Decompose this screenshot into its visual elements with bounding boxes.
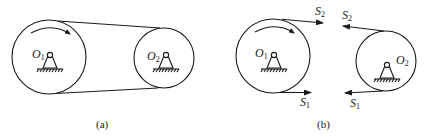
label-s1-left: S1 bbox=[300, 95, 310, 110]
panel-a: O1 O2 (a) bbox=[12, 20, 194, 131]
label-o1-a: O1 bbox=[32, 47, 45, 62]
belt-lower-a bbox=[55, 88, 158, 94]
belt-upper-a bbox=[58, 21, 160, 28]
label-s2-left: S2 bbox=[315, 4, 325, 19]
caption-b: (b) bbox=[317, 118, 330, 131]
force-arrow-s2-right bbox=[343, 26, 384, 31]
label-o2-a: O2 bbox=[147, 49, 160, 64]
belt-drive-diagram: O1 O2 (a) S2 S1 S2 S1 bbox=[0, 0, 428, 137]
label-o1-b: O1 bbox=[255, 46, 268, 61]
caption-a: (a) bbox=[96, 118, 109, 131]
rotation-arrow-icon-a bbox=[31, 28, 70, 34]
force-arrow-s1-right bbox=[345, 91, 383, 93]
label-s1-right: S1 bbox=[350, 96, 360, 111]
panel-b: S2 S1 S2 S1 O1 O2 (b) bbox=[236, 4, 416, 131]
driver-pulley-b bbox=[236, 19, 310, 93]
driven-pulley-a bbox=[134, 28, 194, 88]
label-s2-right: S2 bbox=[342, 8, 352, 23]
rotation-arrow-icon-b bbox=[255, 27, 294, 33]
label-o2-b: O2 bbox=[396, 53, 409, 68]
